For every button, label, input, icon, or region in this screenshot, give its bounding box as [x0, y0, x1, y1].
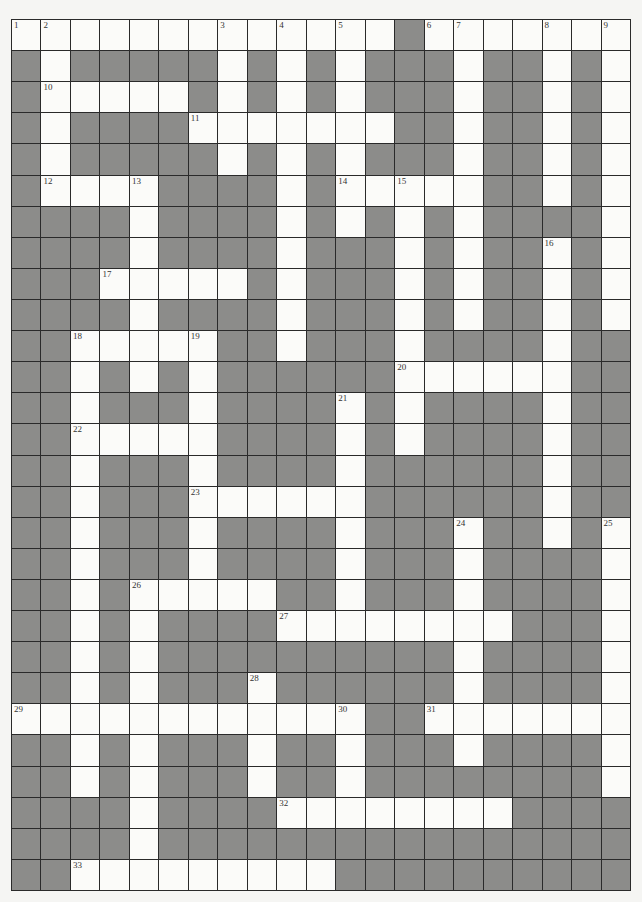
crossword-cell[interactable]	[71, 82, 99, 112]
crossword-cell[interactable]: 10	[41, 82, 69, 112]
crossword-cell[interactable]	[336, 207, 364, 237]
crossword-cell[interactable]	[484, 362, 512, 392]
crossword-cell[interactable]	[130, 611, 158, 641]
crossword-cell[interactable]	[130, 300, 158, 330]
crossword-cell[interactable]	[189, 269, 217, 299]
crossword-cell[interactable]	[454, 642, 482, 672]
crossword-cell[interactable]	[336, 424, 364, 454]
crossword-cell[interactable]	[336, 767, 364, 797]
crossword-cell[interactable]: 3	[218, 20, 246, 50]
crossword-cell[interactable]: 21	[336, 393, 364, 423]
crossword-cell[interactable]	[366, 611, 394, 641]
crossword-cell[interactable]	[336, 51, 364, 81]
crossword-cell[interactable]	[395, 300, 423, 330]
crossword-cell[interactable]	[189, 20, 217, 50]
crossword-cell[interactable]	[218, 51, 246, 81]
crossword-cell[interactable]	[71, 642, 99, 672]
crossword-cell[interactable]	[454, 113, 482, 143]
crossword-cell[interactable]	[71, 704, 99, 734]
crossword-cell[interactable]	[130, 424, 158, 454]
crossword-cell[interactable]	[248, 860, 276, 890]
crossword-cell[interactable]	[484, 611, 512, 641]
crossword-cell[interactable]: 9	[602, 20, 630, 50]
crossword-cell[interactable]	[336, 113, 364, 143]
crossword-cell[interactable]	[130, 860, 158, 890]
crossword-cell[interactable]	[543, 51, 571, 81]
crossword-cell[interactable]	[454, 207, 482, 237]
crossword-cell[interactable]: 16	[543, 238, 571, 268]
crossword-cell[interactable]	[336, 735, 364, 765]
crossword-cell[interactable]	[307, 860, 335, 890]
crossword-cell[interactable]: 5	[336, 20, 364, 50]
crossword-cell[interactable]	[218, 704, 246, 734]
crossword-cell[interactable]	[71, 456, 99, 486]
crossword-cell[interactable]	[336, 549, 364, 579]
crossword-cell[interactable]	[602, 176, 630, 206]
crossword-cell[interactable]: 32	[277, 798, 305, 828]
crossword-cell[interactable]	[395, 207, 423, 237]
crossword-cell[interactable]	[336, 487, 364, 517]
crossword-cell[interactable]	[100, 331, 128, 361]
crossword-cell[interactable]: 24	[454, 518, 482, 548]
crossword-cell[interactable]	[484, 704, 512, 734]
crossword-cell[interactable]	[602, 704, 630, 734]
crossword-cell[interactable]	[572, 20, 600, 50]
crossword-cell[interactable]	[543, 176, 571, 206]
crossword-cell[interactable]	[218, 487, 246, 517]
crossword-cell[interactable]	[454, 300, 482, 330]
crossword-cell[interactable]: 14	[336, 176, 364, 206]
crossword-cell[interactable]: 18	[71, 331, 99, 361]
crossword-cell[interactable]	[100, 860, 128, 890]
crossword-cell[interactable]	[543, 113, 571, 143]
crossword-cell[interactable]	[543, 424, 571, 454]
crossword-cell[interactable]	[454, 673, 482, 703]
crossword-cell[interactable]: 15	[395, 176, 423, 206]
crossword-cell[interactable]	[130, 20, 158, 50]
crossword-cell[interactable]: 27	[277, 611, 305, 641]
crossword-cell[interactable]	[425, 362, 453, 392]
crossword-cell[interactable]: 1	[12, 20, 40, 50]
crossword-cell[interactable]	[130, 735, 158, 765]
crossword-cell[interactable]	[543, 487, 571, 517]
crossword-cell[interactable]	[602, 673, 630, 703]
crossword-cell[interactable]	[336, 518, 364, 548]
crossword-cell[interactable]: 25	[602, 518, 630, 548]
crossword-cell[interactable]	[100, 176, 128, 206]
crossword-cell[interactable]	[602, 51, 630, 81]
crossword-cell[interactable]	[543, 269, 571, 299]
crossword-cell[interactable]	[513, 704, 541, 734]
crossword-cell[interactable]	[130, 331, 158, 361]
crossword-cell[interactable]: 30	[336, 704, 364, 734]
crossword-cell[interactable]	[454, 238, 482, 268]
crossword-cell[interactable]	[395, 393, 423, 423]
crossword-cell[interactable]	[189, 580, 217, 610]
crossword-cell[interactable]	[454, 798, 482, 828]
crossword-cell[interactable]	[71, 518, 99, 548]
crossword-cell[interactable]	[366, 176, 394, 206]
crossword-cell[interactable]	[543, 82, 571, 112]
crossword-cell[interactable]	[130, 269, 158, 299]
crossword-cell[interactable]	[454, 611, 482, 641]
crossword-cell[interactable]	[277, 300, 305, 330]
crossword-cell[interactable]	[602, 269, 630, 299]
crossword-cell[interactable]	[218, 269, 246, 299]
crossword-cell[interactable]	[454, 735, 482, 765]
crossword-cell[interactable]	[71, 393, 99, 423]
crossword-cell[interactable]	[130, 767, 158, 797]
crossword-cell[interactable]	[307, 487, 335, 517]
crossword-cell[interactable]	[71, 580, 99, 610]
crossword-cell[interactable]	[336, 82, 364, 112]
crossword-cell[interactable]	[602, 300, 630, 330]
crossword-cell[interactable]	[602, 238, 630, 268]
crossword-cell[interactable]	[277, 207, 305, 237]
crossword-cell[interactable]	[159, 424, 187, 454]
crossword-cell[interactable]	[71, 673, 99, 703]
crossword-cell[interactable]	[71, 362, 99, 392]
crossword-cell[interactable]	[454, 549, 482, 579]
crossword-cell[interactable]	[454, 176, 482, 206]
crossword-cell[interactable]	[248, 735, 276, 765]
crossword-cell[interactable]	[543, 456, 571, 486]
crossword-cell[interactable]	[71, 487, 99, 517]
crossword-cell[interactable]	[307, 798, 335, 828]
crossword-cell[interactable]	[248, 20, 276, 50]
